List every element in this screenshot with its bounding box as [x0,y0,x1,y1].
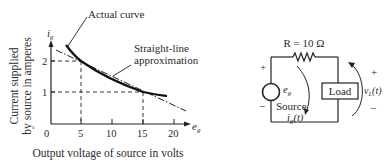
resistor-label: R = 10 Ω [284,37,325,49]
y-axis-title-line1: Current supplied [8,47,21,124]
source-voltage-label: eg [283,84,292,97]
y-axis-title-line2: by source in amperes [21,37,34,135]
graph: 0 5 10 15 20 2 1 ig eg Output voltage of… [8,8,201,160]
x-var-label: eg [192,120,201,134]
resistor-icon [293,53,315,61]
x-axis-title: Output voltage of source in volts [32,147,184,160]
source-current-label: ig(t) [287,112,304,125]
load-voltage-label: vL(t) [364,85,382,97]
current-arrow-head-icon [304,108,309,115]
straight-line-leader [113,65,131,76]
load-label: Load [329,85,352,97]
source-label: Source [276,100,307,112]
x-tick-label-20: 20 [168,128,179,139]
x-axis-arrow-icon [184,122,191,127]
y-tick-label-1: 1 [42,87,47,98]
y-tick-label-2: 2 [42,56,47,67]
x-tick-label-15: 15 [137,128,148,139]
source-plus: + [260,61,266,73]
y-var-label: ig [47,27,54,41]
y-axis-arrow-icon [49,40,54,47]
load-minus: − [370,102,376,114]
x-tick-label-10: 10 [106,128,117,139]
actual-curve-label: Actual curve [88,8,145,20]
actual-curve-leader [68,17,87,46]
circuit: R = 10 Ω + − eg Source ig(t) Load + − vL… [259,37,382,125]
straight-line-label-1: Straight-line [134,42,189,54]
load-plus: + [371,66,377,78]
voltage-source-icon [263,84,280,101]
x-tick-label-5: 5 [78,128,83,139]
source-minus: − [259,100,265,112]
x-tick-label-0: 0 [44,128,49,139]
straight-line-label-2: approximation [134,54,199,66]
